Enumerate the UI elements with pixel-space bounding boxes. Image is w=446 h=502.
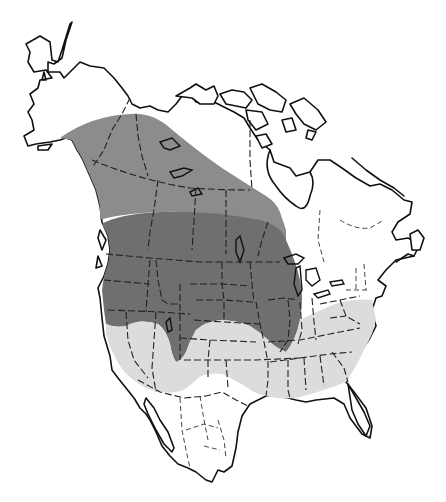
range-map (0, 0, 446, 502)
north-america-map (0, 0, 446, 502)
